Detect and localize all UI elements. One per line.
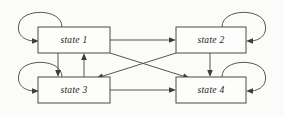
arrowhead-self-loop-state2 — [246, 38, 253, 44]
arrowhead-state3-to-state1 — [81, 53, 87, 60]
state1-label: state 1 — [60, 35, 87, 45]
transition-state1-to-state3 — [55, 53, 61, 77]
transition-state3-to-state4 — [110, 87, 176, 93]
transition-state2-to-state4 — [207, 53, 213, 77]
state2-label: state 2 — [197, 35, 224, 45]
state-node-state1[interactable]: state 1 — [38, 27, 110, 53]
diagram-canvas: state 1 state 2 state 3 state 4 — [0, 0, 284, 117]
state4-label: state 4 — [197, 85, 224, 95]
transition-state2-to-state3 — [96, 53, 176, 79]
state3-label: state 3 — [60, 85, 87, 95]
state-node-state3[interactable]: state 3 — [38, 77, 110, 103]
state-diagram: state 1 state 2 state 3 state 4 — [0, 0, 284, 117]
state-node-state4[interactable]: state 4 — [176, 77, 246, 103]
arrowhead-state3-to-state4 — [169, 87, 176, 93]
transition-state1-to-state4 — [110, 53, 190, 79]
state-node-state2[interactable]: state 2 — [176, 27, 246, 53]
transition-state1-to-state2 — [110, 37, 176, 43]
arrowhead-state1-to-state3 — [55, 70, 61, 77]
arrowhead-state2-to-state4 — [207, 70, 213, 77]
transition-state3-to-state1 — [81, 53, 87, 77]
arrowhead-self-loop-state4 — [246, 88, 253, 94]
arrowhead-state1-to-state2 — [169, 37, 176, 43]
